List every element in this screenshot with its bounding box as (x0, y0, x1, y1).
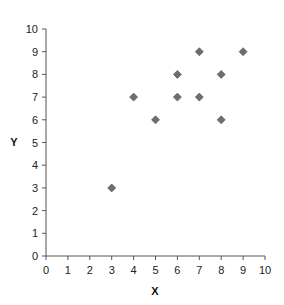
x-axis-title: X (151, 285, 159, 297)
y-tick-label: 6 (32, 114, 38, 126)
diamond-marker (195, 48, 203, 56)
diamond-marker (173, 93, 181, 101)
x-tick-label: 4 (131, 264, 137, 276)
x-tick-label: 10 (259, 264, 271, 276)
x-tick-label: 5 (152, 264, 158, 276)
y-tick-label: 9 (32, 46, 38, 58)
y-tick-label: 4 (32, 159, 38, 171)
y-tick-label: 8 (32, 68, 38, 80)
diamond-marker (152, 116, 160, 124)
diamond-marker (108, 184, 116, 192)
diamond-marker (217, 70, 225, 78)
y-axis-title: Y (10, 136, 18, 148)
diamond-marker (173, 70, 181, 78)
y-axis: 012345678910 (26, 23, 46, 262)
diamond-marker (217, 116, 225, 124)
y-tick-label: 1 (32, 227, 38, 239)
x-tick-label: 3 (109, 264, 115, 276)
x-tick-label: 2 (87, 264, 93, 276)
y-tick-label: 2 (32, 205, 38, 217)
diamond-marker (130, 93, 138, 101)
scatter-chart: 012345678910 012345678910 Y X (0, 0, 284, 305)
x-tick-label: 9 (240, 264, 246, 276)
x-tick-label: 0 (43, 264, 49, 276)
x-tick-label: 8 (218, 264, 224, 276)
x-tick-label: 6 (174, 264, 180, 276)
x-tick-label: 7 (196, 264, 202, 276)
y-tick-label: 7 (32, 91, 38, 103)
y-tick-label: 0 (32, 250, 38, 262)
data-points (108, 48, 247, 192)
y-tick-label: 10 (26, 23, 38, 35)
diamond-marker (239, 48, 247, 56)
y-tick-label: 5 (32, 137, 38, 149)
x-tick-label: 1 (65, 264, 71, 276)
diamond-marker (195, 93, 203, 101)
x-axis: 012345678910 (43, 256, 271, 276)
y-tick-label: 3 (32, 182, 38, 194)
